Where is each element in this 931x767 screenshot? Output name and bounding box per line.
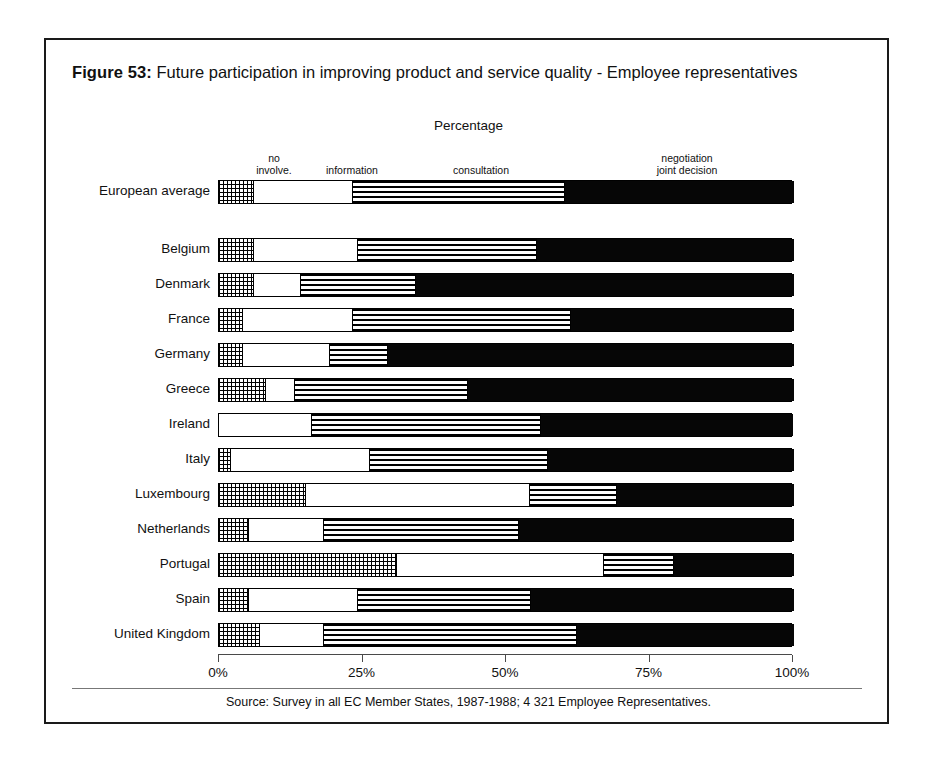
axis-tick-label: 25% [348,665,375,680]
segment-consultation [357,589,530,611]
segment-consultation [603,554,673,576]
stacked-bar [218,413,792,437]
segment-no-involvement [219,589,248,611]
row-label-european-average: European average [58,183,218,198]
row-label-portugal: Portugal [58,556,218,571]
segment-information [396,554,603,576]
segment-information [230,449,368,471]
legend-label-negotiation: negotiation joint decision [622,153,752,176]
segment-consultation [357,239,535,261]
segment-consultation [352,309,570,331]
segment-negotiation [467,379,794,401]
chart-row: Ireland [46,413,792,437]
chart-plot-area: no involve. information consultation neg… [46,40,891,726]
segment-no-involvement [219,181,253,203]
axis-tick [505,655,506,662]
chart-row: France [46,308,792,332]
segment-information [305,484,529,506]
segment-consultation [294,379,467,401]
segment-negotiation [570,309,794,331]
chart-row: European average [46,180,792,204]
stacked-bar [218,238,792,262]
segment-negotiation [415,274,794,296]
stacked-bar [218,588,792,612]
segment-negotiation [673,554,794,576]
row-label-germany: Germany [58,346,218,361]
chart-row: Italy [46,448,792,472]
chart-row: Greece [46,378,792,402]
row-label-netherlands: Netherlands [58,521,218,536]
row-label-luxembourg: Luxembourg [58,486,218,501]
segment-information [248,589,358,611]
segment-no-involvement [219,484,305,506]
segment-consultation [323,519,518,541]
segment-information [253,181,351,203]
segment-no-involvement [219,274,253,296]
segment-information [219,414,311,436]
row-label-france: France [58,311,218,326]
row-label-spain: Spain [58,591,218,606]
segment-no-involvement [219,309,242,331]
legend-label-information: information [304,165,400,177]
legend-label-no-involvement: no involve. [242,153,306,176]
stacked-bar [218,448,792,472]
axis-tick-label: 100% [775,665,810,680]
segment-consultation [300,274,415,296]
chart-row: Germany [46,343,792,367]
segment-information [259,624,323,646]
segment-negotiation [564,181,794,203]
axis-tick [649,655,650,662]
segment-information [253,274,300,296]
stacked-bar [218,308,792,332]
row-label-italy: Italy [58,451,218,466]
row-label-denmark: Denmark [58,276,218,291]
segment-consultation [529,484,616,506]
legend-label-consultation: consultation [416,165,546,177]
segment-negotiation [387,344,794,366]
row-label-greece: Greece [58,381,218,396]
segment-no-involvement [219,379,265,401]
row-label-belgium: Belgium [58,241,218,256]
segment-negotiation [576,624,794,646]
chart-row: Denmark [46,273,792,297]
segment-consultation [311,414,541,436]
stacked-bar [218,553,792,577]
segment-no-involvement [219,624,259,646]
segment-negotiation [536,239,794,261]
segment-information [265,379,295,401]
stacked-bar [218,378,792,402]
stacked-bar [218,180,792,204]
axis-tick [362,655,363,662]
source-divider [72,688,862,689]
segment-no-involvement [219,449,230,471]
segment-information [242,344,329,366]
segment-information [242,309,352,331]
x-axis: 0%25%50%75%100% [218,654,792,655]
chart-row: Luxembourg [46,483,792,507]
axis-tick-label: 75% [635,665,662,680]
figure-frame: Figure 53: Future participation in impro… [44,38,889,724]
axis-tick [792,655,793,662]
stacked-bar [218,518,792,542]
segment-no-involvement [219,554,396,576]
segment-no-involvement [219,344,242,366]
chart-row: Belgium [46,238,792,262]
segment-no-involvement [219,519,248,541]
segment-negotiation [540,414,793,436]
segment-information [253,239,357,261]
chart-row: Portugal [46,553,792,577]
segment-negotiation [547,449,794,471]
chart-row: Spain [46,588,792,612]
segment-consultation [369,449,547,471]
segment-consultation [352,181,565,203]
segment-consultation [329,344,387,366]
segment-negotiation [530,589,794,611]
axis-tick-label: 50% [491,665,518,680]
segment-consultation [323,624,576,646]
segment-no-involvement [219,239,253,261]
stacked-bar [218,623,792,647]
segment-negotiation [518,519,794,541]
row-label-ireland: Ireland [58,416,218,431]
row-label-united-kingdom: United Kingdom [58,626,218,641]
axis-tick-label: 0% [208,665,228,680]
